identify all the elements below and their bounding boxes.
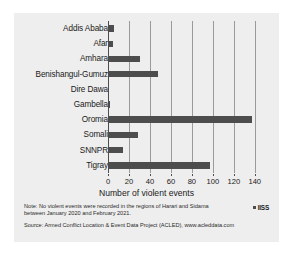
bar <box>108 116 252 123</box>
bar-series <box>108 21 260 173</box>
bar-row <box>108 158 260 173</box>
iiss-logo: IISS <box>253 204 269 211</box>
bar-row <box>108 67 260 82</box>
category-label: Tigray <box>20 161 108 170</box>
tick-label: 80 <box>188 177 196 186</box>
value-axis-ticks: 020406080100120140 <box>108 174 260 186</box>
tick-label: 0 <box>106 177 110 186</box>
bar-row <box>108 36 260 51</box>
chart-note: Note: No violent events were recorded in… <box>24 203 224 217</box>
chart-footer: Note: No violent events were recorded in… <box>24 203 269 229</box>
tick-label: 100 <box>206 177 219 186</box>
bar <box>108 147 123 154</box>
bar <box>108 101 110 108</box>
bar-row <box>108 143 260 158</box>
tick-mark <box>171 174 172 176</box>
category-label: SNNPR <box>20 146 108 155</box>
tick-label: 20 <box>125 177 133 186</box>
plot-area: Addis Ababa Afar Amhara Benishangul-Gumu… <box>14 21 279 173</box>
logo-square-icon <box>253 206 256 209</box>
bar-row <box>108 51 260 66</box>
bars-container <box>108 21 260 173</box>
category-axis-labels: Addis Ababa Afar Amhara Benishangul-Gumu… <box>20 21 108 173</box>
category-label: Somali <box>20 130 108 139</box>
category-label: Gambella <box>20 100 108 109</box>
bar <box>108 41 113 48</box>
tick-label: 140 <box>248 177 261 186</box>
bar <box>108 25 114 32</box>
bar-row <box>108 21 260 36</box>
bar <box>108 86 109 93</box>
tick-mark <box>192 174 193 176</box>
category-label: Oromia <box>20 115 108 124</box>
tick-mark <box>150 174 151 176</box>
tick-label: 60 <box>167 177 175 186</box>
tick-mark <box>255 174 256 176</box>
tick-mark <box>234 174 235 176</box>
logo-label: IISS <box>258 204 269 211</box>
category-label: Amhara <box>20 54 108 63</box>
tick-label: 120 <box>227 177 240 186</box>
category-label: Addis Ababa <box>20 24 108 33</box>
category-label: Dire Dawa <box>20 85 108 94</box>
category-label: Benishangul-Gumuz <box>20 70 108 79</box>
bar-row <box>108 97 260 112</box>
tick-mark <box>213 174 214 176</box>
bar-row <box>108 82 260 97</box>
chart-figure: Addis Ababa Afar Amhara Benishangul-Gumu… <box>14 13 279 242</box>
bar <box>108 71 158 78</box>
tick-mark <box>108 174 109 176</box>
bar-row <box>108 112 260 127</box>
tick-mark <box>129 174 130 176</box>
bar <box>108 56 140 63</box>
chart-source: Source: Armed Conflict Location & Event … <box>24 222 239 229</box>
tick-label: 40 <box>146 177 154 186</box>
x-axis-title: Number of violent events <box>14 188 279 198</box>
bar-row <box>108 127 260 142</box>
bar <box>108 132 138 139</box>
bar <box>108 162 210 169</box>
category-label: Afar <box>20 39 108 48</box>
